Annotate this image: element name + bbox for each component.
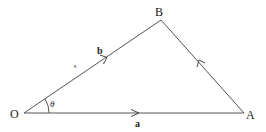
point-a-label: A (246, 108, 255, 122)
small-mark-label: s (74, 63, 77, 69)
side-ab (161, 20, 244, 113)
arrow-ab-icon (197, 60, 205, 67)
diagram-svg: O A B a b θ s (0, 0, 266, 132)
point-b-label: B (155, 5, 163, 19)
angle-arc (45, 99, 49, 113)
point-o-label: O (10, 107, 19, 121)
vector-a-label: a (135, 118, 140, 129)
angle-theta-label: θ (50, 99, 55, 109)
vector-triangle-diagram: O A B a b θ s (0, 0, 266, 132)
side-ob (24, 20, 161, 113)
vector-b-label: b (97, 45, 103, 56)
